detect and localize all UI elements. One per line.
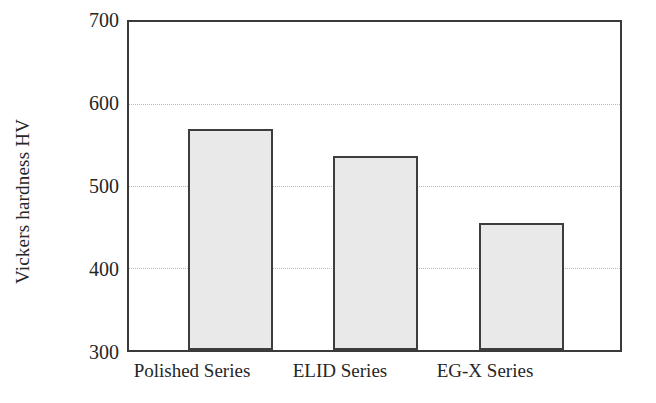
x-tick-label-polished-series: Polished Series <box>124 358 260 384</box>
y-tick-label-500: 500 <box>63 176 119 196</box>
x-axis-tick-labels: Polished Series ELID Series EG-X Series <box>0 358 656 398</box>
bar-eg-x-series <box>479 223 564 350</box>
bar-polished-series <box>188 129 273 350</box>
x-tick-label-eg-x-series: EG-X Series <box>417 358 553 384</box>
y-axis-title: Vickers hardness HV <box>0 0 46 403</box>
plot-area <box>127 20 622 352</box>
x-tick-label-elid-series: ELID Series <box>272 358 408 384</box>
bar-elid-series <box>333 156 418 350</box>
bar-chart-figure: Vickers hardness HV 700 600 500 400 300 … <box>0 0 656 403</box>
y-axis-tick-labels: 700 600 500 400 300 <box>55 0 119 403</box>
y-tick-label-700: 700 <box>63 10 119 30</box>
y-tick-label-400: 400 <box>63 259 119 279</box>
y-tick-label-600: 600 <box>63 93 119 113</box>
gridline-600 <box>129 104 620 105</box>
